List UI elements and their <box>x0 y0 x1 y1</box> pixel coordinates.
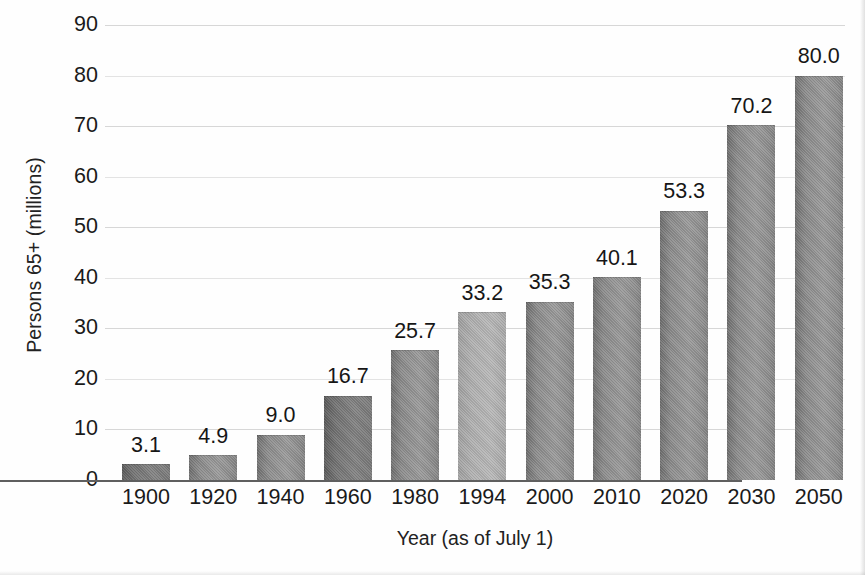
y-axis-tick-label: 10 <box>28 418 98 440</box>
y-axis-tick-label: 80 <box>28 65 98 87</box>
bar-group: 70.2 <box>727 25 775 480</box>
x-axis-tick-label: 1994 <box>449 487 515 509</box>
bar-group: 80.0 <box>795 25 843 480</box>
y-axis-tick-label: 70 <box>28 115 98 137</box>
x-axis-tick-label: 2000 <box>517 487 583 509</box>
bar-group: 9.0 <box>257 25 305 480</box>
bar-series: 3.14.99.016.725.733.235.340.153.370.280.… <box>105 25 845 480</box>
bar <box>391 350 439 480</box>
bar-value-label: 33.2 <box>444 283 520 305</box>
x-axis-tick-label: 1940 <box>248 487 314 509</box>
bar <box>795 76 843 480</box>
bar-group: 4.9 <box>189 25 237 480</box>
bar-value-label: 9.0 <box>243 405 319 427</box>
x-axis-tick-labels: 1900192019401960198019942000201020202030… <box>105 487 845 519</box>
x-axis-title: Year (as of July 1) <box>105 527 845 550</box>
bar-value-label: 4.9 <box>175 426 251 448</box>
bar-group: 33.2 <box>458 25 506 480</box>
x-axis-tick-label: 1920 <box>180 487 246 509</box>
y-axis-tick-label: 20 <box>28 368 98 390</box>
y-axis-tick-label: 50 <box>28 216 98 238</box>
y-axis-tick-labels: 9080706050403020100 <box>28 0 98 575</box>
x-axis-tick-label: 2030 <box>718 487 784 509</box>
x-axis-tick-label: 2050 <box>786 487 852 509</box>
bar <box>660 211 708 480</box>
x-axis-tick-label: 2010 <box>584 487 650 509</box>
bar-value-label: 80.0 <box>781 46 857 68</box>
bar-value-label: 70.2 <box>713 96 789 118</box>
y-axis-tick-label: 30 <box>28 317 98 339</box>
bar-value-label: 16.7 <box>310 366 386 388</box>
scan-edge-right <box>860 0 865 575</box>
bar-value-label: 3.1 <box>108 435 184 457</box>
bar-group: 3.1 <box>122 25 170 480</box>
bar-group: 25.7 <box>391 25 439 480</box>
scan-edge-bottom <box>0 571 865 575</box>
y-axis-tick-label: 40 <box>28 267 98 289</box>
plot-area: 3.14.99.016.725.733.235.340.153.370.280.… <box>105 25 845 480</box>
x-axis-tick-label: 2020 <box>651 487 717 509</box>
bar <box>727 125 775 480</box>
x-axis-tick-label: 1900 <box>113 487 179 509</box>
x-axis-tick-label: 1980 <box>382 487 448 509</box>
bar-value-label: 53.3 <box>646 181 722 203</box>
bar-value-label: 40.1 <box>579 248 655 270</box>
bar <box>526 302 574 480</box>
bar-chart-figure: Persons 65+ (millions) 90807060504030201… <box>0 0 865 575</box>
bar <box>458 312 506 480</box>
bar <box>257 435 305 481</box>
bar-group: 16.7 <box>324 25 372 480</box>
bar-group: 40.1 <box>593 25 641 480</box>
bar-group: 53.3 <box>660 25 708 480</box>
bar-value-label: 35.3 <box>512 272 588 294</box>
x-axis-tick-label: 1960 <box>315 487 381 509</box>
y-axis-tick-label: 90 <box>28 14 98 36</box>
y-axis-tick-label: 60 <box>28 166 98 188</box>
bar-group: 35.3 <box>526 25 574 480</box>
bar <box>189 455 237 480</box>
bar <box>122 464 170 480</box>
bar <box>593 277 641 480</box>
bar <box>324 396 372 480</box>
x-axis-line <box>0 480 742 482</box>
bar-value-label: 25.7 <box>377 321 453 343</box>
